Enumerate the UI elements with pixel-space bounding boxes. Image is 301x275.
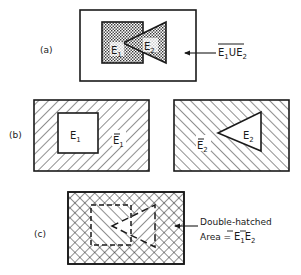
set-e1-square-b bbox=[58, 113, 98, 153]
panel-b: (b) E1 E1 E2 E2 bbox=[9, 100, 289, 171]
double-hatched-label: Double-hatched bbox=[200, 217, 272, 227]
panel-c: (c) Double-hatched Area = E1E2 bbox=[34, 192, 272, 264]
complement-union-label: E1UE2 bbox=[218, 47, 247, 61]
intersection-area-label: Area = E1E2 bbox=[200, 231, 256, 245]
panel-a: (a) E1 E2 E1UE2 bbox=[40, 10, 247, 81]
panel-a-label: (a) bbox=[40, 45, 53, 55]
panel-c-label: (c) bbox=[34, 229, 46, 239]
venn-diagram-figure: (a) E1 E2 E1UE2 (b) E1 E1 E2 E2 bbox=[0, 0, 301, 275]
panel-b-label: (b) bbox=[9, 130, 22, 140]
